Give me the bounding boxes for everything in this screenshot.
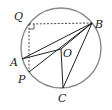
segment-AO — [22, 49, 61, 59]
label-B: B — [94, 18, 103, 31]
segment-AB — [22, 23, 92, 59]
geometry-diagram: Q B O A P C — [0, 0, 112, 110]
segment-QB — [29, 23, 92, 24]
label-A: A — [9, 56, 18, 69]
right-angle-marker — [29, 24, 34, 29]
circle-O — [21, 8, 101, 88]
segment-PB — [29, 23, 92, 72]
label-P: P — [17, 73, 26, 86]
label-O: O — [63, 47, 72, 60]
label-Q: Q — [14, 10, 23, 23]
label-C: C — [58, 92, 67, 105]
